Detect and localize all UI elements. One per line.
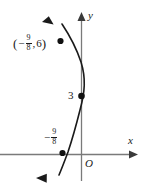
point-marker-upper [57, 38, 63, 44]
x-intercept-numerator: 9 [51, 128, 57, 136]
upper-point-denominator: 8 [26, 44, 32, 52]
x-axis [0, 151, 138, 159]
y-axis-label: y [88, 10, 93, 21]
upper-point-minus-sign: − [18, 38, 24, 49]
upper-point-close-paren: ) [42, 37, 46, 50]
x-intercept-denominator: 8 [51, 138, 57, 146]
upper-point-comma: , [33, 38, 36, 49]
y-intercept-label: 3 [68, 90, 74, 101]
curve-arrowhead-bottom [36, 173, 48, 183]
upper-point-open-paren: ( [13, 37, 17, 50]
y-axis-arrowhead [78, 12, 86, 21]
x-intercept-minus-sign: − [44, 132, 50, 143]
upper-point-fraction: 9 8 [26, 34, 32, 53]
upper-point-label: ( − 9 8 , 6 ) [13, 34, 46, 53]
point-marker-x-intercept [59, 150, 65, 156]
graph-figure: y x O 3 ( − 9 8 , 6 ) − 9 8 [0, 0, 146, 184]
x-axis-label: x [128, 135, 133, 146]
curve-arrowhead-top [42, 16, 54, 25]
origin-label: O [85, 158, 93, 169]
upper-point-numerator: 9 [26, 34, 32, 42]
x-intercept-fraction: 9 8 [51, 128, 57, 147]
x-axis-arrowhead [129, 151, 138, 159]
x-intercept-label: − 9 8 [43, 128, 58, 147]
point-marker-y-intercept [78, 93, 85, 100]
